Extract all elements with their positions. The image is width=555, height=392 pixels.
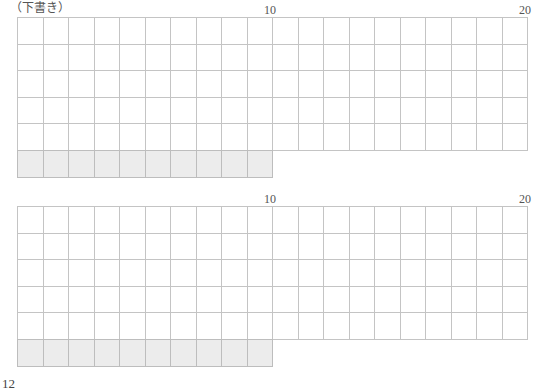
grid-cell[interactable] — [400, 17, 427, 45]
grid-cell[interactable] — [323, 97, 350, 125]
grid-cell[interactable] — [400, 123, 427, 151]
grid-cell[interactable] — [298, 97, 325, 125]
grid-cell[interactable] — [17, 70, 44, 98]
grid-cell[interactable] — [349, 70, 376, 98]
grid-cell[interactable] — [272, 286, 299, 314]
grid-cell[interactable] — [94, 123, 121, 151]
grid-cell[interactable] — [119, 70, 146, 98]
grid-cell[interactable] — [119, 286, 146, 314]
grid-cell[interactable] — [119, 206, 146, 234]
grid-cell[interactable] — [502, 44, 529, 72]
grid-cell[interactable] — [349, 233, 376, 261]
grid-cell[interactable] — [94, 233, 121, 261]
grid-cell[interactable] — [451, 206, 478, 234]
grid-cell[interactable] — [349, 286, 376, 314]
grid-cell[interactable] — [476, 312, 503, 340]
grid-cell[interactable] — [323, 233, 350, 261]
grid-cell[interactable] — [323, 70, 350, 98]
grid-cell[interactable] — [476, 44, 503, 72]
grid-cell[interactable] — [502, 233, 529, 261]
grid-cell[interactable] — [323, 312, 350, 340]
grid-cell[interactable] — [425, 17, 452, 45]
grid-cell[interactable] — [451, 97, 478, 125]
grid-cell[interactable] — [170, 312, 197, 340]
grid-cell[interactable] — [374, 206, 401, 234]
grid-cell[interactable] — [502, 123, 529, 151]
grid-cell[interactable] — [94, 286, 121, 314]
grid-cell[interactable] — [68, 312, 95, 340]
grid-cell[interactable] — [425, 312, 452, 340]
grid-cell[interactable] — [94, 70, 121, 98]
grid-cell[interactable] — [425, 123, 452, 151]
grid-cell[interactable] — [349, 17, 376, 45]
grid-cell[interactable] — [272, 17, 299, 45]
grid-cell[interactable] — [17, 312, 44, 340]
grid-cell[interactable] — [196, 123, 223, 151]
grid-cell[interactable] — [68, 97, 95, 125]
grid-cell[interactable] — [94, 206, 121, 234]
grid-cell[interactable] — [298, 312, 325, 340]
grid-cell[interactable] — [170, 17, 197, 45]
grid-cell[interactable] — [476, 123, 503, 151]
grid-cell[interactable] — [170, 123, 197, 151]
grid-cell[interactable] — [221, 97, 248, 125]
grid-cell[interactable] — [400, 70, 427, 98]
grid-cell[interactable] — [68, 44, 95, 72]
grid-cell[interactable] — [170, 233, 197, 261]
grid-cell[interactable] — [221, 312, 248, 340]
grid-cell[interactable] — [425, 97, 452, 125]
grid-cell[interactable] — [247, 286, 274, 314]
grid-cell[interactable] — [119, 97, 146, 125]
grid-cell[interactable] — [374, 286, 401, 314]
grid-cell[interactable] — [221, 259, 248, 287]
grid-cell[interactable] — [43, 70, 70, 98]
grid-cell[interactable] — [43, 233, 70, 261]
grid-cell[interactable] — [400, 44, 427, 72]
grid-cell[interactable] — [476, 17, 503, 45]
grid-cell[interactable] — [68, 70, 95, 98]
grid-cell[interactable] — [272, 312, 299, 340]
grid-cell[interactable] — [476, 286, 503, 314]
grid-cell[interactable] — [374, 233, 401, 261]
grid-cell[interactable] — [43, 286, 70, 314]
grid-cell[interactable] — [145, 17, 172, 45]
grid-cell[interactable] — [196, 259, 223, 287]
grid-cell[interactable] — [43, 44, 70, 72]
grid-cell[interactable] — [425, 233, 452, 261]
grid-cell[interactable] — [323, 206, 350, 234]
grid-cell[interactable] — [43, 97, 70, 125]
grid-cell[interactable] — [196, 312, 223, 340]
grid-cell[interactable] — [400, 97, 427, 125]
grid-cell[interactable] — [272, 123, 299, 151]
grid-cell[interactable] — [272, 44, 299, 72]
grid-cell[interactable] — [451, 233, 478, 261]
grid-cell[interactable] — [43, 123, 70, 151]
grid-cell[interactable] — [119, 259, 146, 287]
grid-cell[interactable] — [145, 123, 172, 151]
grid-cell[interactable] — [17, 97, 44, 125]
grid-cell[interactable] — [451, 123, 478, 151]
grid-cell[interactable] — [119, 233, 146, 261]
grid-cell[interactable] — [94, 97, 121, 125]
grid-cell[interactable] — [451, 44, 478, 72]
grid-cell[interactable] — [425, 259, 452, 287]
grid-cell[interactable] — [17, 233, 44, 261]
grid-cell[interactable] — [400, 312, 427, 340]
grid-cell[interactable] — [349, 206, 376, 234]
grid-cell[interactable] — [17, 44, 44, 72]
grid-cell[interactable] — [400, 286, 427, 314]
grid-cell[interactable] — [170, 70, 197, 98]
grid-cell[interactable] — [298, 123, 325, 151]
grid-cell[interactable] — [221, 233, 248, 261]
grid-cell[interactable] — [68, 17, 95, 45]
grid-cell[interactable] — [170, 44, 197, 72]
grid-cell[interactable] — [17, 17, 44, 45]
grid-cell[interactable] — [247, 233, 274, 261]
grid-cell[interactable] — [298, 17, 325, 45]
grid-cell[interactable] — [272, 206, 299, 234]
grid-cell[interactable] — [272, 233, 299, 261]
grid-cell[interactable] — [247, 312, 274, 340]
grid-cell[interactable] — [119, 123, 146, 151]
grid-cell[interactable] — [196, 17, 223, 45]
grid-cell[interactable] — [502, 206, 529, 234]
